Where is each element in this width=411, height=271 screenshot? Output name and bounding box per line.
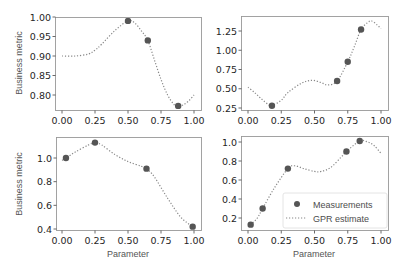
gpr-estimate-line [62,20,194,106]
x-tick-label: 1.00 [370,235,391,246]
y-tick-label: 1.25 [216,26,237,37]
x-axis-label-left: Parameter [107,249,149,259]
panel-bottom-right: 0.000.250.500.751.000.20.40.60.81.0 [222,137,392,247]
legend-marker-icon [294,201,300,207]
y-tick-label: 0.95 [30,31,51,42]
x-tick-label: 1.00 [370,115,391,126]
measurement-point [343,148,349,154]
figure: 0.000.250.500.751.000.800.850.900.951.00… [0,0,411,271]
y-tick-label: 0.6 [37,200,52,211]
y-tick-label: 1.00 [216,45,237,56]
x-tick-label: 0.00 [237,115,258,126]
y-tick-label: 0.8 [37,176,52,187]
measurement-point [189,223,195,229]
measurement-point [334,78,340,84]
y-tick-label: 0.85 [30,70,51,81]
x-axis-label-right: Parameter [293,249,335,259]
y-tick-label: 1.0 [222,137,237,148]
legend: Measurements GPR estimate [283,193,387,228]
axes-frame [57,138,202,231]
x-tick-label: 0.50 [304,235,325,246]
gpr-estimate-line [248,21,381,106]
x-tick-label: 0.00 [237,235,258,246]
panel-top-left: 0.000.250.500.751.000.800.850.900.951.00 [30,12,205,127]
measurement-point [285,165,291,171]
x-tick-label: 0.50 [117,235,138,246]
y-tick-label: 0.2 [222,213,237,224]
x-tick-label: 0.50 [117,115,138,126]
y-tick-label: 0.75 [216,64,237,75]
x-tick-label: 0.00 [51,115,72,126]
y-tick-label: 0.6 [222,175,237,186]
legend-gpr-label: GPR estimate [313,214,369,224]
measurement-point [125,18,131,24]
x-tick-label: 0.25 [271,235,292,246]
legend-measurements-label: Measurements [313,200,373,210]
measurement-point [358,26,364,32]
measurement-point [259,205,265,211]
panel-top-right: 0.000.250.500.751.000.250.500.751.001.25 [216,17,392,127]
axes-frame [56,18,202,111]
y-tick-label: 0.8 [222,156,237,167]
y-tick-label: 0.4 [37,224,52,235]
y-axis-label-bottom: Business metric [14,152,24,216]
x-tick-label: 0.50 [304,115,325,126]
measurement-point [143,165,149,171]
measurement-point [357,138,363,144]
y-tick-label: 0.25 [216,103,237,114]
x-tick-label: 0.75 [150,235,171,246]
y-axis-label-top: Business metric [14,31,24,95]
x-tick-label: 0.75 [337,115,358,126]
y-tick-label: 0.4 [222,194,237,205]
x-tick-label: 0.75 [337,235,358,246]
axes-frame [242,17,389,111]
panel-bottom-left: 0.000.250.500.751.000.40.60.81.0 [37,138,205,247]
x-tick-label: 0.00 [51,235,72,246]
y-tick-label: 1.00 [30,12,51,23]
measurement-point [92,139,98,145]
x-tick-label: 0.25 [271,115,292,126]
gpr-estimate-line [62,143,193,227]
x-tick-label: 1.00 [183,235,204,246]
y-tick-label: 0.80 [30,90,51,101]
measurement-point [175,103,181,109]
y-tick-label: 1.0 [37,153,52,164]
measurement-point [145,37,151,43]
y-tick-label: 0.50 [216,83,237,94]
measurement-point [247,221,253,227]
measurement-point [269,102,275,108]
measurement-point [345,59,351,65]
measurement-point [63,155,69,161]
x-tick-label: 0.25 [84,235,105,246]
x-tick-label: 0.75 [150,115,171,126]
y-tick-label: 0.90 [30,51,51,62]
x-tick-label: 1.00 [183,115,204,126]
x-tick-label: 0.25 [84,115,105,126]
